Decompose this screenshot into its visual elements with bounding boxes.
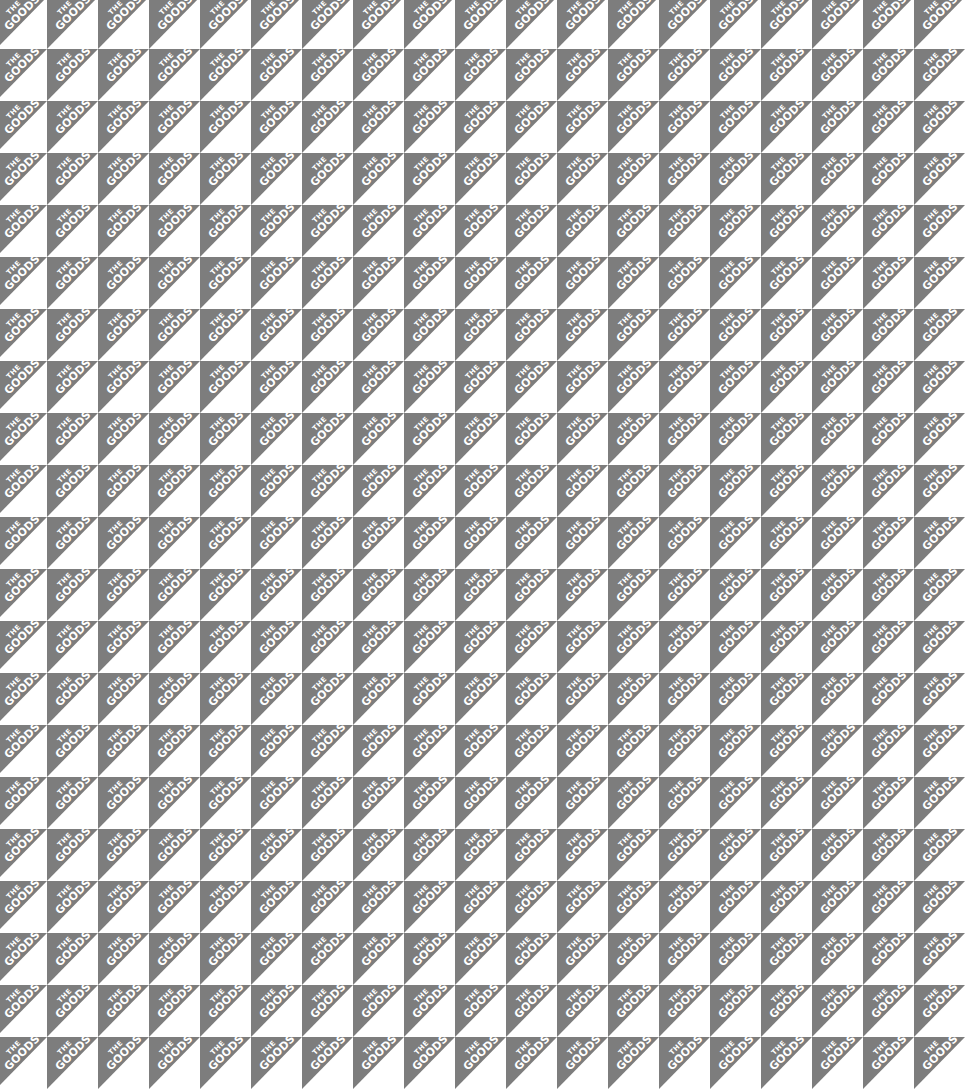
logo-tile: THE GOODS: [98, 569, 149, 621]
logo-tile: THE GOODS: [353, 309, 404, 361]
logo-tile: THE GOODS: [47, 205, 98, 257]
logo-tile: THE GOODS: [608, 985, 659, 1037]
logo-tile: THE GOODS: [251, 309, 302, 361]
logo-tile: THE GOODS: [251, 881, 302, 933]
logo-tile: THE GOODS: [98, 517, 149, 569]
logo-tile: THE GOODS: [47, 881, 98, 933]
logo-tile: THE GOODS: [659, 49, 710, 101]
logo-tile: THE GOODS: [761, 0, 812, 49]
logo-tile: THE GOODS: [710, 49, 761, 101]
logo-tile: THE GOODS: [47, 673, 98, 725]
logo-tile: THE GOODS: [98, 0, 149, 49]
logo-tile: THE GOODS: [506, 777, 557, 829]
logo-tile: THE GOODS: [404, 101, 455, 153]
logo-tile: THE GOODS: [812, 621, 863, 673]
logo-tile: THE GOODS: [557, 725, 608, 777]
logo-tile: THE GOODS: [506, 49, 557, 101]
logo-tile: THE GOODS: [47, 309, 98, 361]
logo-tile: THE GOODS: [149, 673, 200, 725]
logo-tile: THE GOODS: [761, 621, 812, 673]
logo-tile: THE GOODS: [914, 933, 965, 985]
logo-tile: THE GOODS: [353, 985, 404, 1037]
logo-tile: THE GOODS: [506, 309, 557, 361]
logo-tile: THE GOODS: [98, 153, 149, 205]
logo-tile: THE GOODS: [353, 569, 404, 621]
logo-tile: THE GOODS: [353, 257, 404, 309]
logo-tile: THE GOODS: [812, 101, 863, 153]
logo-tile: THE GOODS: [761, 985, 812, 1037]
logo-tile: THE GOODS: [98, 309, 149, 361]
logo-tile: THE GOODS: [557, 777, 608, 829]
logo-tile: THE GOODS: [863, 205, 914, 257]
logo-tile: THE GOODS: [251, 0, 302, 49]
logo-tile: THE GOODS: [557, 0, 608, 49]
logo-tile: THE GOODS: [404, 205, 455, 257]
logo-tile: THE GOODS: [302, 985, 353, 1037]
logo-tile: THE GOODS: [863, 881, 914, 933]
logo-tile: THE GOODS: [353, 777, 404, 829]
logo-tile: THE GOODS: [200, 0, 251, 49]
logo-tile: THE GOODS: [200, 101, 251, 153]
logo-tile: THE GOODS: [557, 153, 608, 205]
logo-tile: THE GOODS: [47, 361, 98, 413]
logo-tile: THE GOODS: [0, 517, 47, 569]
logo-tile: THE GOODS: [506, 101, 557, 153]
logo-tile: THE GOODS: [251, 517, 302, 569]
logo-tile: THE GOODS: [251, 933, 302, 985]
logo-tile: THE GOODS: [761, 413, 812, 465]
logo-tile: THE GOODS: [149, 829, 200, 881]
logo-tile: THE GOODS: [302, 413, 353, 465]
logo-tile: THE GOODS: [455, 361, 506, 413]
logo-tile: THE GOODS: [659, 1037, 710, 1089]
logo-tile: THE GOODS: [251, 725, 302, 777]
logo-tile: THE GOODS: [608, 517, 659, 569]
logo-tile: THE GOODS: [557, 881, 608, 933]
logo-tile: THE GOODS: [914, 361, 965, 413]
logo-tile: THE GOODS: [710, 569, 761, 621]
logo-tile: THE GOODS: [659, 725, 710, 777]
logo-tile: THE GOODS: [149, 517, 200, 569]
logo-tile: THE GOODS: [455, 777, 506, 829]
logo-tile: THE GOODS: [761, 309, 812, 361]
logo-tile: THE GOODS: [200, 517, 251, 569]
logo-tile: THE GOODS: [404, 49, 455, 101]
logo-tile: THE GOODS: [404, 517, 455, 569]
logo-tile: THE GOODS: [761, 777, 812, 829]
logo-tile: THE GOODS: [659, 153, 710, 205]
logo-tile: THE GOODS: [914, 829, 965, 881]
logo-tile: THE GOODS: [659, 0, 710, 49]
logo-tile: THE GOODS: [149, 361, 200, 413]
logo-tile: THE GOODS: [98, 725, 149, 777]
logo-tile: THE GOODS: [353, 1037, 404, 1089]
logo-tile: THE GOODS: [914, 413, 965, 465]
logo-tile: THE GOODS: [353, 725, 404, 777]
logo-tile: THE GOODS: [710, 465, 761, 517]
logo-tile: THE GOODS: [863, 49, 914, 101]
logo-tile: THE GOODS: [710, 1037, 761, 1089]
logo-tile: THE GOODS: [455, 829, 506, 881]
logo-tile: THE GOODS: [200, 309, 251, 361]
logo-tile: THE GOODS: [761, 829, 812, 881]
logo-tile: THE GOODS: [200, 673, 251, 725]
logo-tile: THE GOODS: [506, 257, 557, 309]
logo-tile: THE GOODS: [200, 1037, 251, 1089]
logo-tile: THE GOODS: [608, 569, 659, 621]
logo-tile: THE GOODS: [863, 1037, 914, 1089]
logo-tile: THE GOODS: [710, 985, 761, 1037]
logo-tile: THE GOODS: [863, 0, 914, 49]
logo-tile: THE GOODS: [659, 517, 710, 569]
logo-tile: THE GOODS: [404, 309, 455, 361]
logo-tile: THE GOODS: [557, 101, 608, 153]
logo-tile: THE GOODS: [251, 413, 302, 465]
logo-tile: THE GOODS: [353, 465, 404, 517]
logo-tile: THE GOODS: [98, 1037, 149, 1089]
logo-tile: THE GOODS: [404, 933, 455, 985]
logo-tile: THE GOODS: [608, 49, 659, 101]
logo-tile: THE GOODS: [251, 49, 302, 101]
logo-tile: THE GOODS: [557, 1037, 608, 1089]
logo-tile: THE GOODS: [761, 933, 812, 985]
logo-tile: THE GOODS: [404, 569, 455, 621]
logo-tile: THE GOODS: [812, 49, 863, 101]
logo-tile: THE GOODS: [761, 517, 812, 569]
logo-tile: THE GOODS: [302, 309, 353, 361]
